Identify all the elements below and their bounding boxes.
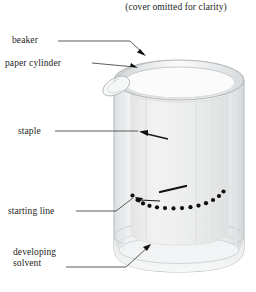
paper-cylinder-shape xyxy=(131,82,228,245)
label-staple: staple xyxy=(18,126,41,137)
label-starting-line: starting line xyxy=(8,206,54,217)
label-developing-solvent: developing solvent xyxy=(13,247,56,269)
label-beaker: beaker xyxy=(12,35,38,46)
label-developing-solvent-line1: developing xyxy=(13,247,56,257)
leader-beaker xyxy=(58,41,146,56)
label-developing-solvent-line2: solvent xyxy=(13,258,41,268)
figure-caption: (cover omitted for clarity) xyxy=(96,2,256,12)
label-paper-cylinder: paper cylinder xyxy=(5,58,61,69)
chromatography-figure: (cover omitted for clarity) beaker paper… xyxy=(0,0,256,292)
